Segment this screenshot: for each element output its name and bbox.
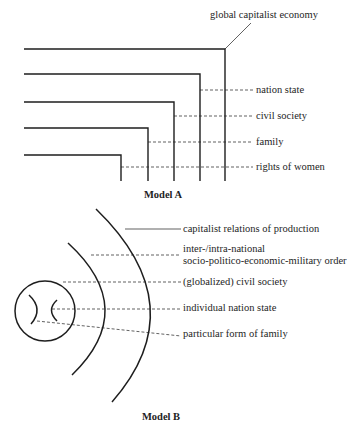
label-capitalist-relations: capitalist relations of production	[183, 223, 319, 235]
label-rights-of-women: rights of women	[256, 161, 325, 173]
label-individual-nation-state: individual nation state	[183, 302, 276, 314]
leader-global	[225, 23, 251, 49]
bracket-civil-society	[24, 102, 174, 181]
bracket-global-economy	[24, 49, 225, 181]
model-a-leaders	[121, 23, 253, 167]
label-family: family	[256, 136, 283, 148]
bracket-rights-of-women	[24, 155, 121, 181]
caption-model-b: Model B	[142, 411, 180, 422]
model-b-shapes	[15, 209, 150, 402]
caption-model-a: Model A	[144, 189, 182, 200]
label-civil-society: civil society	[256, 110, 307, 122]
diagram-canvas	[0, 0, 347, 432]
inner-circle	[15, 281, 75, 341]
leader-family	[37, 321, 181, 336]
left-bracket-arc	[29, 295, 37, 324]
label-globalized-civil-society: (globalized) civil society	[183, 276, 287, 288]
label-order-line1: inter-/intra-national	[183, 243, 265, 255]
model-a-brackets	[24, 49, 225, 181]
right-bracket-arc	[52, 300, 58, 321]
model-b-leaders	[37, 229, 181, 336]
label-particular-form-of-family: particular form of family	[183, 328, 288, 340]
label-order-line2: socio-politico-economic-military order	[183, 255, 347, 267]
label-nation-state: nation state	[256, 84, 304, 96]
label-global-capitalist-economy: global capitalist economy	[210, 9, 318, 21]
